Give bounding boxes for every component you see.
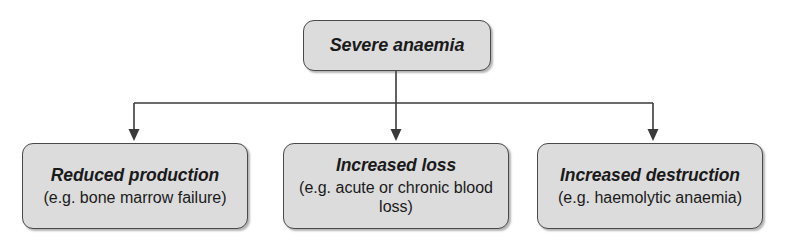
- node-title: Severe anaemia: [330, 35, 465, 56]
- node-title: Reduced production: [51, 165, 219, 186]
- node-subtitle: (e.g. haemolytic anaemia): [552, 188, 748, 208]
- node-title: Increased destruction: [560, 165, 740, 186]
- node-increased-destruction: Increased destruction (e.g. haemolytic a…: [537, 143, 763, 229]
- node-reduced-production: Reduced production (e.g. bone marrow fai…: [22, 143, 248, 229]
- node-title: Increased loss: [336, 155, 456, 176]
- node-severe-anaemia: Severe anaemia: [303, 20, 491, 71]
- node-subtitle: (e.g. acute or chronic blood loss): [284, 178, 508, 217]
- node-increased-loss: Increased loss (e.g. acute or chronic bl…: [283, 143, 509, 229]
- arrowhead-middle-icon: [391, 129, 402, 141]
- arrowhead-right-icon: [648, 129, 659, 141]
- node-subtitle: (e.g. bone marrow failure): [37, 188, 232, 208]
- arrowhead-left-icon: [129, 129, 140, 141]
- flowchart-diagram: Severe anaemia Reduced production (e.g. …: [0, 0, 787, 246]
